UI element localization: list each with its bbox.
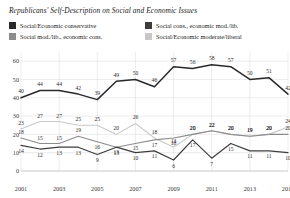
- x-axis-tick-label: 2011: [206, 185, 218, 192]
- legend-item-1: Social cons., economic mod./lib.: [145, 22, 285, 29]
- line-chart-svg: 0102030405060200120032005200720092011201…: [0, 44, 290, 198]
- data-point-label: 15: [37, 135, 43, 141]
- data-point-label: 42: [285, 85, 290, 91]
- y-axis-tick-label: 0: [16, 167, 19, 174]
- data-point-label: 18: [152, 129, 158, 135]
- data-point-label: 10: [285, 155, 290, 161]
- data-point-label: 27: [56, 113, 62, 119]
- legend-label: Social/Economic moderate/liberal: [156, 33, 242, 40]
- legend-swatch-icon: [9, 22, 16, 29]
- data-point-label: 6: [172, 163, 175, 169]
- data-point-label: 50: [247, 70, 253, 76]
- data-point-label: 39: [94, 90, 100, 96]
- data-point-label: 58: [209, 55, 215, 61]
- y-axis-tick-label: 30: [13, 112, 19, 119]
- data-point-label: 15: [228, 146, 234, 152]
- data-point-label: 23: [18, 120, 24, 126]
- legend-item-2: Social mod./lib., economic cons.: [9, 33, 145, 40]
- data-point-label: 49: [114, 72, 120, 78]
- chart-plot-area: 0102030405060200120032005200720092011201…: [0, 44, 290, 198]
- data-point-label: 15: [56, 135, 62, 141]
- legend-swatch-icon: [145, 33, 152, 40]
- data-point-label: 56: [190, 59, 196, 65]
- data-point-label: 40: [18, 88, 24, 94]
- y-axis-tick-label: 40: [13, 94, 19, 101]
- data-point-label: 19: [75, 127, 81, 133]
- x-axis-tick-label: 2015: [282, 185, 290, 192]
- data-point-label: 26: [133, 114, 139, 120]
- data-point-label: 15: [133, 145, 139, 151]
- chart-figure: Republicans' Self-Description on Social …: [0, 0, 290, 198]
- data-point-label: 20: [114, 125, 120, 131]
- legend-item-3: Social/Economic moderate/liberal: [145, 33, 285, 40]
- data-point-label: 13: [171, 138, 177, 144]
- data-point-label: 13: [114, 149, 120, 155]
- chart-legend: Social/Economic conservative Social cons…: [9, 20, 285, 42]
- data-point-label: 19: [247, 127, 253, 133]
- legend-label: Social/Economic conservative: [20, 22, 96, 29]
- legend-label: Social cons., economic mod./lib.: [156, 22, 238, 29]
- data-point-label: 22: [209, 122, 215, 128]
- data-point-label: 20: [190, 125, 196, 131]
- data-point-label: 44: [56, 81, 62, 87]
- chart-title: Republicans' Self-Description on Social …: [9, 6, 197, 15]
- x-axis-tick-label: 2003: [53, 185, 65, 192]
- data-point-label: 9: [96, 157, 99, 163]
- data-point-label: 50: [133, 70, 139, 76]
- data-point-label: 12: [37, 152, 43, 158]
- data-point-label: 13: [75, 150, 81, 156]
- x-axis-tick-label: 2007: [129, 185, 141, 192]
- x-axis-tick-label: 2009: [167, 185, 179, 192]
- legend-swatch-icon: [145, 22, 152, 29]
- data-point-label: 27: [37, 113, 43, 119]
- x-axis-tick-label: 2005: [91, 185, 103, 192]
- data-point-label: 57: [228, 57, 234, 63]
- y-axis-tick-label: 50: [13, 76, 19, 83]
- data-point-label: 20: [285, 125, 290, 131]
- legend-label: Social mod./lib., economic cons.: [20, 33, 102, 40]
- data-point-label: 11: [266, 153, 272, 159]
- y-axis-tick-label: 60: [13, 57, 19, 64]
- data-point-label: 57: [171, 57, 177, 63]
- data-point-label: 46: [152, 77, 158, 83]
- data-point-label: 13: [56, 150, 62, 156]
- data-point-label: 24: [285, 118, 290, 124]
- x-axis-tick-label: 2013: [244, 185, 256, 192]
- data-point-label: 25: [94, 116, 100, 122]
- legend-swatch-icon: [9, 33, 16, 40]
- data-point-label: 44: [37, 81, 43, 87]
- x-axis-tick-label: 2001: [15, 185, 27, 192]
- data-point-label: 10: [133, 155, 139, 161]
- data-point-label: 7: [210, 161, 213, 167]
- data-point-label: 20: [228, 125, 234, 131]
- data-point-label: 25: [75, 116, 81, 122]
- data-point-label: 51: [266, 68, 272, 74]
- data-point-label: 16: [94, 144, 100, 150]
- data-point-label: 17: [190, 142, 196, 148]
- data-point-label: 14: [18, 148, 24, 154]
- data-point-label: 17: [152, 142, 158, 148]
- data-point-label: 20: [266, 125, 272, 131]
- legend-item-0: Social/Economic conservative: [9, 22, 145, 29]
- data-point-label: 18: [18, 129, 24, 135]
- data-point-label: 11: [152, 153, 158, 159]
- data-point-label: 42: [75, 85, 81, 91]
- data-point-label: 11: [247, 153, 253, 159]
